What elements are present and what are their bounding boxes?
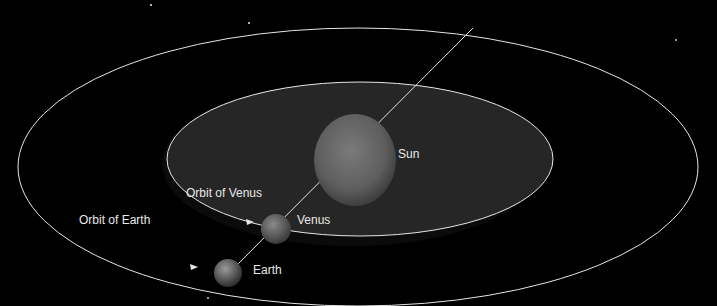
venus-icon bbox=[261, 214, 291, 244]
venus-label: Venus bbox=[297, 213, 330, 227]
orbit-of-venus-label: Orbit of Venus bbox=[186, 186, 262, 200]
sun-icon bbox=[314, 114, 396, 206]
solar-orbit-diagram: Sun Orbit of Venus Venus Orbit of Earth … bbox=[0, 0, 717, 306]
diagram-canvas bbox=[0, 0, 717, 306]
orbit-of-earth-label: Orbit of Earth bbox=[79, 213, 150, 227]
sun-label: Sun bbox=[398, 147, 419, 161]
earth-label: Earth bbox=[253, 263, 282, 277]
earth-icon bbox=[214, 259, 242, 287]
